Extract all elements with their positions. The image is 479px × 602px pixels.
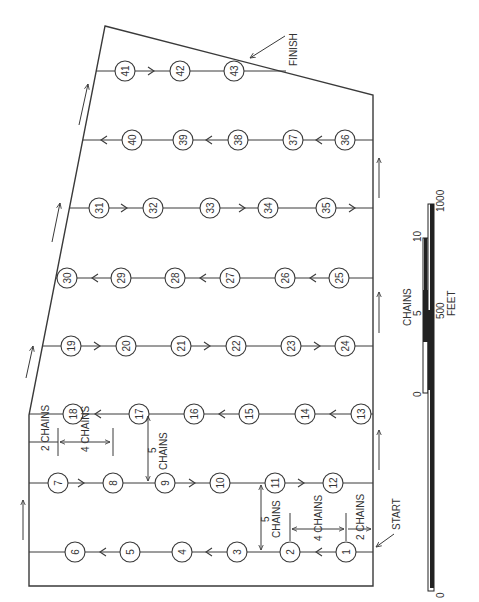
- four-chains-top-label: 4 CHAINS: [80, 406, 91, 452]
- station-14: 14: [295, 404, 315, 424]
- station-10: 10: [210, 473, 230, 493]
- station-number: 3: [232, 549, 243, 555]
- station-30: 30: [57, 268, 77, 288]
- station-7: 7: [48, 473, 68, 493]
- five-chains-bottom-number: 5: [260, 516, 271, 522]
- station-number: 18: [68, 408, 79, 420]
- station-number: 31: [94, 202, 105, 214]
- station-17: 17: [129, 404, 149, 424]
- station-number: 26: [280, 272, 291, 284]
- station-number: 10: [215, 477, 226, 489]
- station-number: 16: [189, 408, 200, 420]
- station-number: 8: [108, 480, 119, 486]
- station-number: 7: [53, 480, 64, 486]
- station-markers: 1234567891011121314151617181920212223242…: [48, 61, 371, 562]
- station-24: 24: [335, 336, 355, 356]
- station-6: 6: [65, 542, 85, 562]
- scale-feet-tick-500: 500: [435, 302, 446, 319]
- station-number: 9: [160, 480, 171, 486]
- scale-feet-label: FEET: [446, 290, 457, 316]
- scale-feet-tick-0: 0: [435, 592, 446, 598]
- station-number: 20: [121, 340, 132, 352]
- station-23: 23: [281, 336, 301, 356]
- station-1: 1: [336, 542, 356, 562]
- five-chains-bottom-unit: CHAINS: [271, 500, 282, 538]
- path-arrows: [23, 84, 379, 540]
- station-13: 13: [351, 404, 371, 424]
- station-number: 17: [134, 408, 145, 420]
- station-38: 38: [228, 130, 248, 150]
- station-number: 32: [148, 202, 159, 214]
- station-number: 37: [288, 134, 299, 146]
- finish-label: FINISH: [288, 33, 299, 66]
- station-40: 40: [122, 130, 142, 150]
- scale-bar: 0 5 10 CHAINS 0 500 1000 FEET: [402, 189, 457, 598]
- station-number: 1: [341, 549, 352, 555]
- station-15: 15: [239, 404, 259, 424]
- station-39: 39: [173, 130, 193, 150]
- station-number: 5: [125, 549, 136, 555]
- two-chains-bottom-label: 2 CHAINS: [355, 494, 366, 540]
- station-number: 38: [233, 134, 244, 146]
- station-22: 22: [226, 336, 246, 356]
- station-3: 3: [227, 542, 247, 562]
- dimension-annotations-bottom: 5 CHAINS 4 CHAINS 2 CHAINS: [260, 485, 371, 550]
- two-chains-top-label: 2 CHAINS: [40, 405, 51, 451]
- station-43: 43: [224, 61, 244, 81]
- station-number: 43: [229, 65, 240, 77]
- station-37: 37: [283, 130, 303, 150]
- station-number: 36: [340, 134, 351, 146]
- station-number: 24: [340, 340, 351, 352]
- station-29: 29: [111, 268, 131, 288]
- four-chains-bottom-label: 4 CHAINS: [313, 495, 324, 541]
- station-number: 41: [120, 65, 131, 77]
- station-21: 21: [171, 336, 191, 356]
- station-number: 13: [356, 408, 367, 420]
- station-12: 12: [323, 473, 343, 493]
- scale-feet-tick-1000: 1000: [435, 189, 446, 212]
- scale-chains-tick-5: 5: [412, 310, 423, 316]
- station-20: 20: [116, 336, 136, 356]
- scale-chains-tick-10: 10: [412, 230, 423, 242]
- station-41: 41: [115, 61, 135, 81]
- start-label: START: [391, 498, 402, 530]
- scale-chains-label: CHAINS: [402, 288, 413, 326]
- station-25: 25: [329, 268, 349, 288]
- station-number: 29: [116, 272, 127, 284]
- station-number: 40: [127, 134, 138, 146]
- station-36: 36: [335, 130, 355, 150]
- station-31: 31: [89, 198, 109, 218]
- station-number: 23: [286, 340, 297, 352]
- station-number: 33: [205, 202, 216, 214]
- station-5: 5: [120, 542, 140, 562]
- station-number: 30: [62, 272, 73, 284]
- station-2: 2: [280, 542, 300, 562]
- station-33: 33: [200, 198, 220, 218]
- station-number: 25: [334, 272, 345, 284]
- station-number: 22: [231, 340, 242, 352]
- station-27: 27: [220, 268, 240, 288]
- finish-marker: FINISH: [250, 33, 299, 66]
- start-marker: START: [376, 498, 402, 547]
- scale-chains-tick-0: 0: [412, 391, 423, 397]
- station-number: 6: [70, 549, 81, 555]
- station-4: 4: [172, 542, 192, 562]
- station-26: 26: [275, 268, 295, 288]
- station-28: 28: [165, 268, 185, 288]
- station-number: 42: [175, 65, 186, 77]
- station-number: 15: [244, 408, 255, 420]
- station-number: 4: [177, 549, 188, 555]
- station-number: 27: [225, 272, 236, 284]
- station-42: 42: [170, 61, 190, 81]
- station-number: 35: [321, 202, 332, 214]
- station-number: 28: [170, 272, 181, 284]
- station-19: 19: [61, 336, 81, 356]
- station-number: 12: [328, 477, 339, 489]
- five-chains-top-number: 5: [147, 447, 158, 453]
- station-number: 21: [176, 340, 187, 352]
- station-35: 35: [316, 198, 336, 218]
- station-number: 19: [66, 340, 77, 352]
- station-34: 34: [258, 198, 278, 218]
- station-16: 16: [184, 404, 204, 424]
- station-32: 32: [143, 198, 163, 218]
